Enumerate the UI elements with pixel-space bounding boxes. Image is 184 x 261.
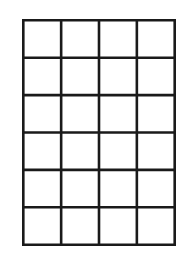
grid-diagram <box>22 19 176 246</box>
grid-lines <box>22 19 176 246</box>
